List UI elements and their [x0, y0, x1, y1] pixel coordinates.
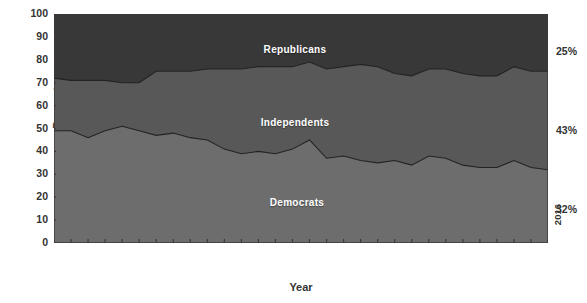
- y-tick-40: 40: [14, 144, 48, 156]
- end-label-independents: 43%: [556, 124, 577, 136]
- y-tick-30: 30: [14, 167, 48, 179]
- x-axis-title: Year: [54, 281, 548, 293]
- y-tick-20: 20: [14, 190, 48, 202]
- series-label-democrats: Democrats: [247, 197, 347, 208]
- y-tick-60: 60: [14, 99, 48, 111]
- y-tick-100: 100: [14, 7, 48, 19]
- y-tick-0: 0: [14, 236, 48, 248]
- y-tick-10: 10: [14, 213, 48, 225]
- end-label-republicans: 25%: [556, 45, 577, 57]
- y-tick-70: 70: [14, 76, 48, 88]
- series-label-independents: Independents: [245, 117, 345, 128]
- y-tick-80: 80: [14, 53, 48, 65]
- end-label-democrats: 32%: [556, 203, 577, 215]
- y-tick-50: 50: [14, 122, 48, 134]
- y-tick-90: 90: [14, 30, 48, 42]
- series-label-republicans: Republicans: [245, 44, 345, 55]
- stacked-area-chart: Percentage Year 0102030405060708090100 1…: [0, 0, 587, 303]
